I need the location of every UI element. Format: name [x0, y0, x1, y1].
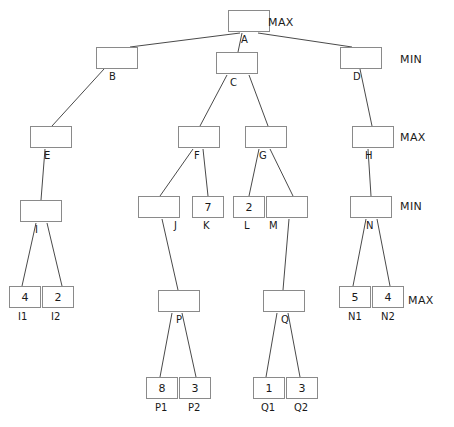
node-label-j: J: [174, 221, 177, 231]
node-label-a: A: [241, 35, 248, 45]
node-label-k: K: [203, 221, 210, 231]
tree-node-b[interactable]: [96, 47, 138, 69]
leaf-node-k[interactable]: 7: [192, 196, 224, 218]
leaf-node-i1[interactable]: 4: [9, 286, 41, 308]
tree-edge-p-p1: [160, 313, 172, 377]
tree-edge-a-b: [130, 33, 240, 47]
node-label-l: L: [244, 221, 250, 231]
tree-edge-m-q: [283, 219, 289, 290]
node-label-p: P: [176, 315, 182, 325]
level-label-2: MAX: [400, 132, 426, 143]
tree-node-q[interactable]: [263, 290, 305, 312]
node-value-q1: 1: [266, 383, 273, 394]
tree-edge-b-e: [52, 69, 104, 126]
level-label-3: MIN: [400, 201, 422, 212]
node-label-n: N: [366, 221, 373, 231]
tree-edge-c-g: [249, 75, 268, 126]
node-value-i2: 2: [55, 292, 62, 303]
node-label-q: Q: [281, 315, 289, 325]
tree-edge-n-n2: [377, 219, 390, 286]
node-label-n1: N1: [348, 312, 362, 322]
tree-node-f[interactable]: [178, 126, 220, 148]
tree-edge-c-f: [200, 75, 227, 126]
node-label-q2: Q2: [294, 403, 308, 413]
leaf-node-n2[interactable]: 4: [372, 286, 404, 308]
tree-edge-n-n1: [353, 219, 366, 286]
node-value-q2: 3: [299, 383, 306, 394]
tree-edge-a-d: [258, 33, 352, 47]
node-label-f: F: [194, 151, 200, 161]
tree-node-e[interactable]: [30, 126, 72, 148]
tree-node-c[interactable]: [216, 52, 258, 74]
node-label-q1: Q1: [261, 403, 275, 413]
node-value-l: 2: [246, 202, 253, 213]
node-label-p2: P2: [188, 403, 200, 413]
node-label-b: B: [109, 72, 116, 82]
node-label-i: I: [35, 225, 38, 235]
node-value-k: 7: [205, 202, 212, 213]
leaf-node-p2[interactable]: 3: [179, 377, 211, 399]
tree-node-g[interactable]: [245, 126, 287, 148]
node-label-i1: I1: [18, 312, 27, 322]
leaf-node-i2[interactable]: 2: [42, 286, 74, 308]
leaf-node-l[interactable]: 2: [233, 196, 265, 218]
tree-node-a[interactable]: [228, 10, 270, 32]
tree-edge-d-h: [360, 69, 372, 126]
level-label-4: MAX: [408, 295, 434, 306]
leaf-node-q1[interactable]: 1: [253, 377, 285, 399]
node-label-d: D: [353, 72, 361, 82]
level-label-1: MIN: [400, 54, 422, 65]
node-label-h: H: [365, 151, 373, 161]
node-value-n2: 4: [385, 292, 392, 303]
tree-node-p[interactable]: [158, 290, 200, 312]
leaf-node-n1[interactable]: 5: [339, 286, 371, 308]
level-label-0: MAX: [268, 17, 294, 28]
tree-edge-g-m: [270, 149, 293, 196]
node-label-m: M: [269, 221, 278, 231]
tree-edge-q-q1: [266, 313, 277, 377]
tree-edge-f-k: [203, 149, 208, 196]
tree-node-j[interactable]: [138, 196, 180, 218]
tree-edge-i-i2: [47, 223, 62, 286]
leaf-node-q2[interactable]: 3: [286, 377, 318, 399]
node-label-n2: N2: [381, 312, 395, 322]
node-label-e: E: [44, 151, 50, 161]
game-tree-diagram: ABCDEFGHIJ7K2LMNPQ4I12I25N14N28P13P21Q13…: [0, 0, 454, 427]
tree-node-d[interactable]: [340, 47, 382, 69]
node-value-n1: 5: [352, 292, 359, 303]
node-label-c: C: [230, 78, 237, 88]
tree-edge-g-l: [249, 149, 259, 196]
node-label-i2: I2: [51, 312, 60, 322]
tree-edge-f-j: [160, 149, 193, 196]
node-value-i1: 4: [22, 292, 29, 303]
tree-node-h[interactable]: [352, 126, 394, 148]
tree-node-i[interactable]: [20, 200, 62, 222]
node-label-p1: P1: [155, 403, 167, 413]
node-value-p2: 3: [192, 383, 199, 394]
tree-node-n[interactable]: [350, 196, 392, 218]
leaf-node-p1[interactable]: 8: [146, 377, 178, 399]
tree-edge-q-q2: [288, 313, 300, 377]
tree-edge-p-p2: [182, 313, 196, 377]
tree-edge-i-i1: [22, 223, 36, 286]
node-label-g: G: [259, 151, 267, 161]
node-value-p1: 8: [159, 383, 166, 394]
tree-node-m[interactable]: [266, 196, 308, 218]
